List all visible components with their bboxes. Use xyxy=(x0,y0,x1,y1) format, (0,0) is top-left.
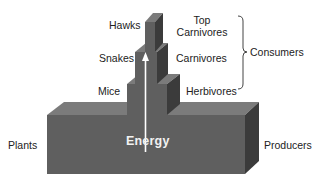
label-carnivores: Carnivores xyxy=(176,52,227,64)
label-snakes: Snakes xyxy=(99,52,134,64)
label-energy: Energy xyxy=(126,134,170,148)
label-top-carnivores: Top Carnivores xyxy=(172,14,232,38)
label-consumers: Consumers xyxy=(250,46,304,58)
label-hawks: Hawks xyxy=(109,19,141,31)
label-herbivores: Herbivores xyxy=(186,85,237,97)
label-top-carnivores-line1: Top xyxy=(172,14,232,26)
label-plants: Plants xyxy=(8,139,37,151)
consumers-brace xyxy=(238,16,247,89)
label-mice: Mice xyxy=(98,85,120,97)
label-top-carnivores-line2: Carnivores xyxy=(172,26,232,38)
energy-pyramid-diagram: Hawks Snakes Mice Plants Top Carnivores … xyxy=(0,0,319,177)
label-producers: Producers xyxy=(264,139,312,151)
